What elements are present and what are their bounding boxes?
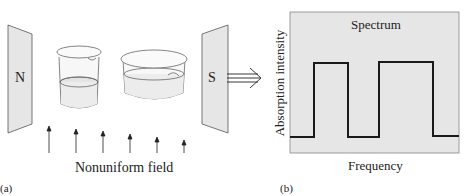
tall-beaker-icon xyxy=(57,46,101,108)
wide-dish-icon xyxy=(121,50,187,99)
north-pole-label: N xyxy=(15,70,25,86)
x-axis-label: Frequency xyxy=(348,158,403,174)
panel-a-label: (a) xyxy=(0,182,12,194)
implies-arrow-icon xyxy=(227,68,261,88)
field-arrows xyxy=(47,126,186,153)
field-caption: Nonuniform field xyxy=(75,160,173,176)
panel-b-label: (b) xyxy=(280,182,293,194)
y-axis-label: Absorption intensity xyxy=(272,19,288,147)
chart-title: Spectrum xyxy=(351,17,401,33)
south-pole-label: S xyxy=(208,70,216,86)
